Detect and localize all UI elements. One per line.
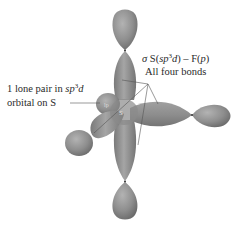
sigma-bond-bottom-lobe [114, 120, 136, 181]
bond-label-text: S( [147, 53, 159, 64]
lone-pair-sp: sp [65, 83, 74, 94]
orbital-drawing [0, 0, 235, 229]
sigma-bond-right-lobe [130, 102, 192, 127]
f-p-orbital-lower-left-outer-lobe [65, 130, 93, 156]
node-bottom [124, 181, 126, 183]
bond-label-text2: ) – F( [177, 53, 200, 64]
bond-label-line1: σ S(sp3d) – F(p) [142, 53, 209, 65]
lone-pair-text: 1 lone pair in [7, 83, 65, 94]
sf4-orbital-diagram: S lp σ S(sp3d) – F(p) All four bonds 1 l… [0, 0, 235, 229]
lone-pair-marker: lp [104, 99, 109, 111]
node-right [191, 114, 193, 116]
sigma-bond-top-lobe [114, 51, 136, 100]
bond-label-sp: sp [159, 53, 168, 64]
f-p-orbital-right-outer-lobe [192, 105, 231, 128]
bond-label-close: ) [206, 53, 210, 64]
lone-pair-label-line1: 1 lone pair in sp3d [7, 83, 83, 95]
central-overlap [110, 99, 138, 125]
f-p-orbital-bottom-outer-lobe [112, 182, 137, 220]
f-p-orbital-top-outer-lobe [112, 10, 137, 51]
central-atom-label: S [119, 107, 123, 119]
lone-pair-label-line2: orbital on S [7, 97, 56, 109]
bond-label-line2: All four bonds [145, 66, 206, 78]
lone-pair-d: d [78, 83, 83, 94]
node-top [124, 50, 126, 52]
